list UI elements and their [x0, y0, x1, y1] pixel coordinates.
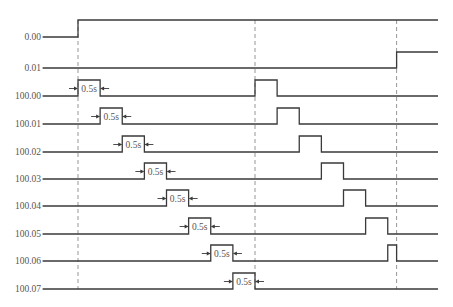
- signal-trace-0-01: [43, 52, 438, 68]
- pulse-width-label: 0.5s: [103, 112, 119, 122]
- pulse-width-label: 0.5s: [148, 167, 164, 177]
- signal-trace-100-04: [43, 190, 438, 206]
- signal-trace-100-06: [43, 245, 438, 261]
- signal-label: 100.02: [15, 147, 41, 157]
- reference-lines: [78, 20, 397, 289]
- signal-trace-100-02: [43, 136, 438, 152]
- signal-label: 0.00: [24, 32, 41, 42]
- signal-trace-100-03: [43, 163, 438, 179]
- pulse-width-label: 0.5s: [170, 194, 186, 204]
- pulse-width-annotation: 0.5s: [224, 277, 264, 287]
- pulse-width-annotation: 0.5s: [135, 167, 175, 177]
- pulse-width-label: 0.5s: [214, 249, 230, 259]
- pulse-width-label: 0.5s: [192, 222, 208, 232]
- pulse-annotations: 0.5s0.5s0.5s0.5s0.5s0.5s0.5s0.5s: [69, 84, 264, 287]
- signal-label: 100.06: [15, 256, 41, 266]
- pulse-width-label: 0.5s: [126, 140, 142, 150]
- pulse-width-label: 0.5s: [81, 84, 97, 94]
- signal-label: 100.00: [15, 91, 41, 101]
- pulse-width-label: 0.5s: [236, 277, 252, 287]
- pulse-width-annotation: 0.5s: [113, 140, 153, 150]
- signal-label: 100.04: [15, 201, 41, 211]
- signal-trace-100-05: [43, 218, 438, 234]
- signal-label: 0.01: [24, 63, 41, 73]
- pulse-width-annotation: 0.5s: [158, 194, 198, 204]
- signal-traces: [43, 20, 438, 289]
- pulse-width-annotation: 0.5s: [180, 222, 220, 232]
- signal-labels: 0.000.01100.00100.01100.02100.03100.0410…: [15, 32, 41, 294]
- signal-trace-100-01: [43, 108, 438, 124]
- pulse-width-annotation: 0.5s: [202, 249, 242, 259]
- signal-label: 100.03: [15, 174, 41, 184]
- signal-label: 100.05: [15, 229, 41, 239]
- timing-diagram: 0.000.01100.00100.01100.02100.03100.0410…: [0, 0, 453, 307]
- signal-label: 100.07: [15, 284, 41, 294]
- pulse-width-annotation: 0.5s: [69, 84, 109, 94]
- pulse-width-annotation: 0.5s: [91, 112, 131, 122]
- signal-trace-0-00: [43, 20, 438, 37]
- signal-label: 100.01: [15, 119, 41, 129]
